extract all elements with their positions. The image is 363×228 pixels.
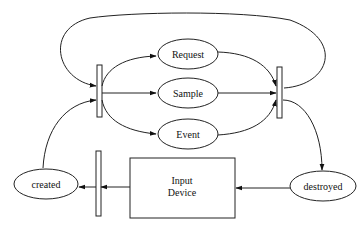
fork-bar [97,65,102,117]
node-request: Request [158,39,218,69]
node-destroyed: destroyed [290,171,356,201]
init-bar [96,151,101,216]
node-destroyed-label: destroyed [304,181,343,192]
node-event: Event [158,119,218,149]
edge-join-to-destroyed [283,100,322,170]
node-created-label: created [32,179,61,190]
node-event-label: Event [176,129,200,140]
edge-request-to-join [218,52,276,86]
node-created: created [14,169,78,199]
node-input-device-label-line2: Device [168,187,197,198]
edge-fork-to-event [102,100,156,134]
join-bar [277,67,282,118]
node-sample-label: Sample [173,88,204,99]
edge-created-to-fork [43,100,96,168]
node-input-device: Input Device [130,158,235,218]
diagram-canvas: Request Sample Event created destroyed I… [0,0,363,228]
node-input-device-label-line1: Input [171,175,192,186]
node-request-label: Request [172,49,204,60]
node-sample: Sample [158,78,218,108]
edge-event-to-join [218,100,276,135]
edge-fork-to-request [102,56,156,86]
